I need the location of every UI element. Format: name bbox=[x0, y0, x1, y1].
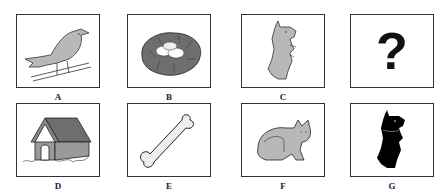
question-mark-icon: ? bbox=[351, 15, 433, 87]
image-box-g[interactable] bbox=[350, 103, 434, 177]
bird-icon bbox=[17, 15, 99, 87]
image-box-d[interactable] bbox=[16, 103, 100, 177]
cell-e[interactable]: E bbox=[127, 103, 211, 191]
label-b: B bbox=[127, 92, 211, 102]
label-e: E bbox=[127, 181, 211, 191]
doghouse-icon bbox=[17, 104, 99, 176]
image-box-f[interactable] bbox=[241, 103, 325, 177]
label-a: A bbox=[16, 92, 100, 102]
image-box-c[interactable] bbox=[241, 14, 325, 88]
image-box-question[interactable]: ? bbox=[350, 14, 434, 88]
cell-c[interactable]: C bbox=[241, 14, 325, 102]
label-f: F bbox=[241, 181, 325, 191]
bone-icon bbox=[128, 104, 210, 176]
label-d: D bbox=[16, 181, 100, 191]
image-box-b[interactable] bbox=[127, 14, 211, 88]
cell-g[interactable]: G bbox=[350, 103, 434, 191]
cell-a[interactable]: A bbox=[16, 14, 100, 102]
label-c: C bbox=[241, 92, 325, 102]
image-box-a[interactable] bbox=[16, 14, 100, 88]
cell-d[interactable]: D bbox=[16, 103, 100, 191]
cell-f[interactable]: F bbox=[241, 103, 325, 191]
cell-question[interactable]: ? bbox=[350, 14, 434, 88]
dog-icon bbox=[242, 15, 324, 87]
cell-b[interactable]: B bbox=[127, 14, 211, 102]
image-box-e[interactable] bbox=[127, 103, 211, 177]
dog-silhouette-icon bbox=[351, 104, 433, 176]
label-g: G bbox=[350, 181, 434, 191]
nest-icon bbox=[128, 15, 210, 87]
cat-icon bbox=[242, 104, 324, 176]
